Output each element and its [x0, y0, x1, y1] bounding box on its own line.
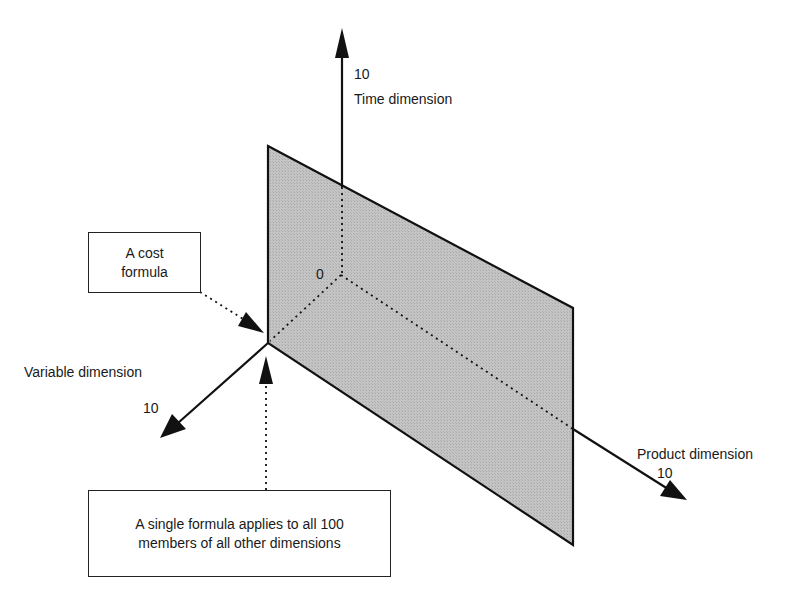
cost-formula-arrowhead-icon — [238, 312, 264, 333]
cost-formula-pointer — [200, 292, 248, 322]
variable-axis-arrowhead-icon — [160, 414, 186, 438]
formula-plane — [268, 146, 573, 545]
product-axis-arrowhead-icon — [660, 480, 687, 500]
single-formula-arrowhead-icon — [259, 356, 273, 384]
variable-axis-label: Variable dimension — [24, 364, 142, 381]
product-axis-max-tick: 10 — [657, 465, 673, 482]
cost-formula-callout: A cost formula — [88, 232, 201, 293]
single-formula-line2: members of all other dimensions — [135, 534, 344, 553]
cost-formula-line2: formula — [121, 263, 168, 282]
time-axis-arrowhead-icon — [335, 28, 349, 58]
single-formula-callout: A single formula applies to all 100 memb… — [88, 490, 391, 577]
single-formula-line1: A single formula applies to all 100 — [135, 515, 344, 534]
origin-tick: 0 — [316, 266, 324, 283]
product-axis-label: Product dimension — [637, 446, 753, 463]
variable-axis — [178, 343, 268, 423]
variable-axis-max-tick: 10 — [143, 400, 159, 417]
time-axis-label: Time dimension — [354, 91, 452, 108]
cost-formula-line1: A cost — [121, 244, 168, 263]
time-axis-max-tick: 10 — [354, 66, 370, 83]
